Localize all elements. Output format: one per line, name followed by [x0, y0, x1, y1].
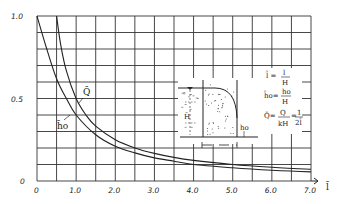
x-tick-label: 3.0: [147, 186, 159, 195]
def-h-den: H: [282, 98, 288, 106]
definitions: l̄ = l H h̄o= ho H Q̄= Q kH = 1 2l̄: [264, 68, 303, 134]
inset-H-label: H: [184, 113, 190, 121]
inset-diagram: H ho: [178, 78, 270, 148]
q-curve-label: Q̄: [83, 86, 90, 97]
x-axis-arrow-icon: [311, 178, 318, 184]
x-tick-label: 1.0: [69, 186, 81, 195]
x-tick-label: 5.0: [226, 186, 238, 195]
h-curve-label: h̄o: [57, 120, 69, 131]
y-tick-label: 1.0: [11, 12, 23, 21]
y-tick-label: 0.5: [11, 95, 23, 104]
x-tick-label: 6.0: [265, 186, 277, 195]
def-h-lhs: h̄o=: [264, 90, 279, 100]
x-tick-label: 2.0: [108, 186, 120, 195]
inset-h0-label: ho: [240, 124, 249, 132]
def-q-num2: 1: [297, 109, 301, 117]
def-l-lhs: l̄ =: [266, 70, 277, 80]
def-q-den2: 2l̄: [295, 117, 302, 127]
h-label-leader: [64, 115, 70, 120]
x-tick-label: 7.0: [304, 186, 316, 195]
x-tick-label: 0: [34, 186, 39, 195]
x-axis-label: l̄: [326, 181, 330, 192]
def-q-den: kH: [278, 120, 288, 128]
chart: 01.02.03.04.05.06.07.000.51.0 l̄ Q̄ h̄o …: [0, 0, 351, 204]
def-l-den: H: [282, 79, 288, 87]
def-q-lhs: Q̄=: [264, 111, 276, 120]
y-tick-label: 0: [20, 177, 25, 186]
def-q-num: Q: [280, 109, 286, 117]
x-tick-label: 4.0: [187, 186, 199, 195]
def-h-num: ho: [282, 88, 291, 96]
